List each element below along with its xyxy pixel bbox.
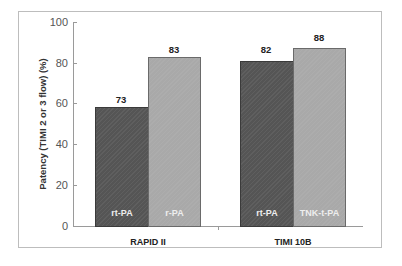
group-label-rapid-ii: RAPID II xyxy=(88,237,208,247)
bar-label-rapid-rpa: r-PA xyxy=(149,208,200,218)
y-tick-label-0: 0 xyxy=(38,220,68,232)
y-tick-label-40: 40 xyxy=(38,138,68,150)
bar-rapid-rtpa: rt-PA xyxy=(95,107,149,227)
x-axis-group-separator-tick xyxy=(218,226,219,230)
value-label-timi-tnk: 88 xyxy=(299,32,339,43)
y-tick-80 xyxy=(73,63,77,64)
y-tick-40 xyxy=(73,144,77,145)
y-axis-line xyxy=(73,22,74,227)
bar-label-rapid-rtpa: rt-PA xyxy=(96,208,148,218)
bar-timi-rtpa: rt-PA xyxy=(240,61,294,227)
value-label-timi-rtpa: 82 xyxy=(246,44,286,55)
y-tick-label-60: 60 xyxy=(38,97,68,109)
y-tick-100 xyxy=(73,22,77,23)
y-axis-label: Patency (TIMI 2 or 3 flow) (%) xyxy=(37,58,48,189)
value-label-rapid-rtpa: 73 xyxy=(101,94,141,105)
group-label-timi-10b: TIMI 10B xyxy=(233,237,353,247)
y-tick-60 xyxy=(73,103,77,104)
bar-label-timi-rtpa: rt-PA xyxy=(241,208,293,218)
bar-rapid-rpa: r-PA xyxy=(148,57,201,227)
y-tick-label-80: 80 xyxy=(38,57,68,69)
bar-timi-tnk: TNK-t-PA xyxy=(293,48,346,227)
value-label-rapid-rpa: 83 xyxy=(154,44,194,55)
y-tick-20 xyxy=(73,185,77,186)
bar-label-timi-tnk: TNK-t-PA xyxy=(294,208,345,218)
y-tick-label-20: 20 xyxy=(38,179,68,191)
y-tick-label-100: 100 xyxy=(38,16,68,28)
